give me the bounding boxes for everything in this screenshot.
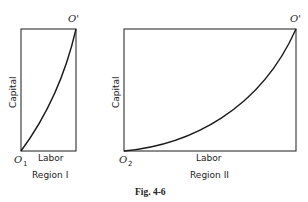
region-2-origin-label: O [119,154,127,165]
region-2-y-label: Capital [111,76,121,108]
region-1-origin-label: O [14,154,22,165]
region-2-box [124,29,296,151]
region-2-region-label: Region II [190,170,229,180]
figure-caption: Fig. 4-6 [135,187,166,197]
figure-canvas: O' O 1 Labor Region I Capital O' O 2 Lab… [0,0,308,202]
region-1-curve [21,29,76,151]
region-1-region-label: Region I [32,170,68,180]
region-2-curve [124,29,296,151]
region-1-box [21,29,76,151]
region-1-corner-label: O' [68,13,79,24]
region-1-origin-subscript: 1 [23,160,27,168]
panel-region-1: O' O 1 Labor Region I Capital [8,13,79,180]
panel-region-2: O' O 2 Labor Region II Capital [111,13,301,180]
region-2-origin-subscript: 2 [128,160,132,168]
region-2-x-label: Labor [196,153,222,163]
region-1-y-label: Capital [8,76,18,108]
region-1-x-label: Labor [38,153,64,163]
region-2-corner-label: O' [290,13,301,24]
